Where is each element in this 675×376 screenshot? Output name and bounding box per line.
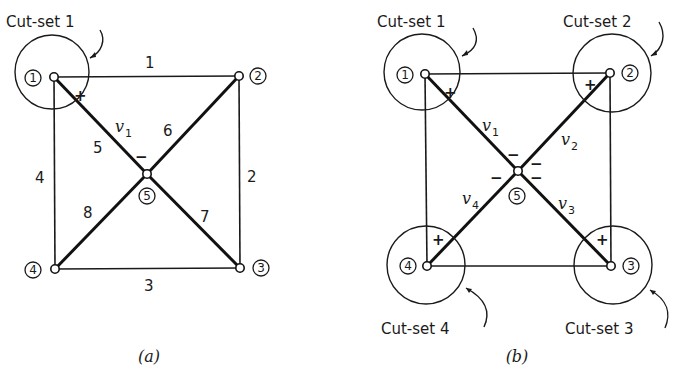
svg-text:2: 2 <box>626 66 634 80</box>
node-b-label-4: 4 <box>400 258 416 274</box>
edge-b-2-3 <box>610 73 611 266</box>
node-label-2: 2 <box>250 68 266 84</box>
edge-label-8: 8 <box>83 204 93 222</box>
minus-sign-3: − <box>530 169 543 187</box>
edge-b-1-4 <box>425 74 427 266</box>
node-b-1 <box>421 70 429 78</box>
node-3 <box>236 264 244 272</box>
edge-7 <box>147 174 240 268</box>
voltage-v4-subscript: 4 <box>472 199 479 212</box>
edge-4 <box>54 77 55 269</box>
cutset-1-label: Cut-set 1 <box>6 13 75 31</box>
edge-1 <box>54 76 239 77</box>
svg-text:5: 5 <box>513 189 521 203</box>
node-b-label-5: 5 <box>509 188 525 204</box>
edge-label-6: 6 <box>163 122 173 140</box>
edge-3 <box>55 268 240 269</box>
node-label-1: 1 <box>25 70 41 86</box>
cutset-b3-label: Cut-set 3 <box>565 320 634 338</box>
edge-label-4: 4 <box>35 169 45 187</box>
cutset-b1-arrow <box>462 28 476 56</box>
minus-sign-4: − <box>490 169 503 187</box>
node-1 <box>50 73 58 81</box>
cutset-b2-arrow <box>651 22 663 56</box>
voltage-v1-symbol: v <box>115 117 124 136</box>
caption-a: (a) <box>138 347 160 366</box>
voltage-v1-symbol: v <box>482 116 491 135</box>
edge-b-1-5 <box>425 74 518 171</box>
cutset-1-arrow <box>90 30 103 58</box>
plus-sign: + <box>74 87 87 105</box>
edge-label-1: 1 <box>145 54 155 72</box>
panel-a: Cut-set 1 1 2 3 4 5 6 7 8 v 1 + − 1 2 3 <box>6 13 269 366</box>
svg-text:3: 3 <box>257 261 265 275</box>
minus-sign-1: − <box>507 146 520 164</box>
plus-sign-2: + <box>584 76 597 94</box>
edge-label-2: 2 <box>247 168 257 186</box>
node-5 <box>143 170 151 178</box>
voltage-v3-symbol: v <box>558 194 567 213</box>
node-label-3: 3 <box>253 260 269 276</box>
edge-label-3: 3 <box>144 277 154 295</box>
svg-text:3: 3 <box>627 259 635 273</box>
voltage-v2-symbol: v <box>561 130 570 149</box>
svg-text:4: 4 <box>29 263 37 277</box>
node-4 <box>51 265 59 273</box>
minus-sign: − <box>135 148 148 166</box>
cutset-b4-arrow <box>466 288 487 327</box>
svg-text:4: 4 <box>404 259 412 273</box>
edge-b-1-2 <box>425 73 610 74</box>
voltage-v4-symbol: v <box>462 189 471 208</box>
caption-b: (b) <box>506 347 529 366</box>
node-label-5: 5 <box>139 188 155 204</box>
svg-text:2: 2 <box>254 69 262 83</box>
arrow-head-icon <box>90 52 96 58</box>
node-b-2 <box>606 69 614 77</box>
edge-label-5: 5 <box>93 139 103 157</box>
node-b-label-2: 2 <box>622 65 638 81</box>
voltage-v2-subscript: 2 <box>571 140 578 153</box>
plus-sign-3: + <box>596 231 609 249</box>
edge-2 <box>239 76 240 268</box>
edge-8 <box>55 174 147 269</box>
node-b-label-3: 3 <box>623 258 639 274</box>
edge-5 <box>54 77 147 174</box>
node-b-4 <box>423 262 431 270</box>
edge-label-7: 7 <box>200 208 210 226</box>
node-label-4: 4 <box>25 262 41 278</box>
node-b-3 <box>607 262 615 270</box>
cutset-b4-label: Cut-set 4 <box>381 320 450 338</box>
plus-sign-4: + <box>432 231 445 249</box>
panel-b: Cut-set 1 Cut-set 2 Cut-set 3 Cut-set 4 … <box>377 13 668 366</box>
cutset-b3-arrow <box>650 290 668 328</box>
svg-text:1: 1 <box>29 71 37 85</box>
arrow-head-icon <box>462 50 468 56</box>
cutset-diagram: Cut-set 1 1 2 3 4 5 6 7 8 v 1 + − 1 2 3 <box>0 0 675 376</box>
edge-b-4-5 <box>427 171 518 266</box>
voltage-v1-subscript: 1 <box>492 126 499 139</box>
node-b-label-1: 1 <box>397 67 413 83</box>
arrow-head-icon <box>651 50 657 56</box>
cutset-b1-label: Cut-set 1 <box>377 13 446 31</box>
cutset-b2-label: Cut-set 2 <box>563 13 632 31</box>
voltage-v3-subscript: 3 <box>568 204 575 217</box>
plus-sign-1: + <box>444 84 457 102</box>
voltage-v1-subscript: 1 <box>125 127 132 140</box>
svg-text:1: 1 <box>401 68 409 82</box>
node-2 <box>235 72 243 80</box>
svg-text:5: 5 <box>143 189 151 203</box>
edge-6 <box>147 76 239 174</box>
node-b-5 <box>514 167 522 175</box>
